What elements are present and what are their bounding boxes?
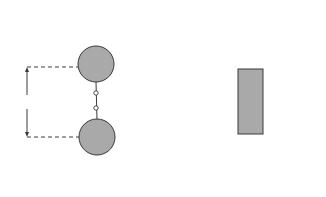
dimension-arrow-top: [25, 67, 29, 72]
bar-magnet-figure: [238, 69, 263, 134]
point-b-marker: [94, 106, 98, 110]
negative-sphere: [79, 119, 115, 155]
positive-sphere: [78, 46, 114, 82]
dimension-arrow-bottom: [25, 132, 29, 137]
dimension-label-bg: [22, 95, 32, 109]
diagram: [0, 0, 326, 197]
axis-field-line: [96, 82, 97, 119]
bar-magnet: [238, 69, 263, 134]
point-a-marker: [94, 91, 98, 95]
electric-dipole-figure: [22, 46, 115, 155]
